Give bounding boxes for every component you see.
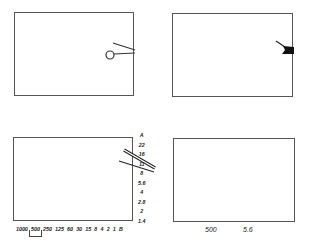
- aperture-value: 2: [140, 207, 143, 217]
- aperture-value: 5.6: [138, 179, 145, 189]
- aperture-value: 2.8: [138, 198, 145, 208]
- aperture-scale: A 22 16 11 8 5.6 4 2.8 2 1.4: [138, 131, 145, 226]
- aperture-value: 1.4: [138, 217, 145, 227]
- shutter-readout: 500: [205, 226, 217, 233]
- shutter-value: 1000: [16, 226, 28, 232]
- shutter-value: 2: [107, 226, 110, 232]
- aperture-value: 11: [139, 160, 145, 170]
- shutter-value: 1: [113, 226, 116, 232]
- shutter-value: 125: [55, 226, 64, 232]
- shutter-value: 8: [94, 226, 97, 232]
- viewfinder-panel-top-left: [14, 12, 134, 96]
- needle-circle-indicator-icon: [105, 41, 135, 59]
- shutter-value: B: [119, 226, 123, 232]
- shutter-value-selected: 500: [31, 226, 40, 232]
- shutter-value: 15: [85, 226, 91, 232]
- shutter-value: 250: [43, 226, 52, 232]
- selection-bracket: [29, 230, 42, 237]
- aperture-value: 8: [140, 169, 143, 179]
- aperture-value: 22: [139, 141, 145, 151]
- needle-flag-indicator-icon: [276, 41, 294, 55]
- viewfinder-panel-bottom-right: [173, 138, 295, 222]
- aperture-value: 16: [139, 150, 145, 160]
- viewfinder-panel-bottom-left: [13, 137, 133, 221]
- viewfinder-panel-top-right: [172, 13, 293, 97]
- aperture-readout: 5.6: [243, 226, 253, 233]
- shutter-speed-scale: 1000 500 250 125 60 30 15 8 4 2 1 B: [16, 226, 123, 232]
- shutter-value: 30: [76, 226, 82, 232]
- aperture-value: A: [140, 131, 144, 141]
- shutter-value: 60: [67, 226, 73, 232]
- aperture-value: 4: [140, 188, 143, 198]
- shutter-value: 4: [101, 226, 104, 232]
